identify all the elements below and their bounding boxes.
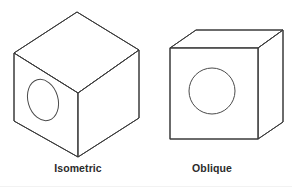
isometric-cube — [14, 12, 139, 157]
diagram-canvas — [0, 0, 292, 187]
oblique-right-face — [258, 30, 283, 139]
caption-oblique: Oblique — [192, 163, 232, 174]
oblique-cube — [170, 30, 283, 139]
projection-diagram: Isometric Oblique — [0, 0, 292, 187]
caption-isometric: Isometric — [54, 163, 102, 174]
oblique-hole-circle — [189, 68, 235, 114]
bottom-divider — [0, 186, 292, 187]
